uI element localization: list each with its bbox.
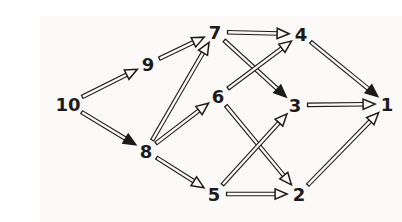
edge-shaft-core: [308, 104, 364, 105]
node-label-5: 5: [208, 184, 221, 205]
edge-shaft-core: [308, 120, 371, 184]
node-label-10: 10: [55, 94, 80, 115]
edge-8-5: [156, 157, 204, 187]
edge-shaft-core: [228, 32, 278, 33]
edge-5-3: [222, 114, 287, 185]
node-label-1: 1: [381, 94, 394, 115]
arrowhead-5-2: [275, 189, 287, 199]
edge-10-8: [81, 112, 136, 145]
dag-canvas: 10987654321: [40, 16, 402, 222]
edge-7-4: [227, 28, 289, 38]
edge-3-1: [307, 99, 375, 109]
edge-4-1: [310, 42, 378, 97]
arrowhead-10-9: [124, 69, 137, 79]
edge-shaft-core: [223, 122, 280, 184]
edge-5-2: [226, 189, 287, 199]
edge-shaft-core: [82, 113, 126, 140]
edge-shaft-core: [311, 42, 369, 89]
edge-9-7: [159, 37, 205, 59]
arrowhead-3-1: [363, 99, 375, 109]
edge-shaft-core: [156, 110, 199, 143]
node-label-3: 3: [289, 95, 302, 116]
node-label-7: 7: [209, 22, 222, 43]
edge-10-9: [82, 69, 138, 97]
edge-2-1: [307, 113, 378, 186]
edge-shaft-core: [160, 42, 194, 58]
arrowhead-9-7: [191, 37, 204, 47]
arrowhead-7-4: [277, 28, 289, 38]
node-label-9: 9: [142, 54, 155, 75]
edge-shaft-core: [83, 74, 128, 96]
node-label-4: 4: [295, 24, 308, 45]
graph-figure: 10987654321: [40, 16, 402, 222]
node-label-8: 8: [140, 141, 153, 162]
edge-shaft-core: [226, 106, 284, 176]
node-label-6: 6: [212, 86, 225, 107]
node-label-2: 2: [293, 184, 306, 205]
edge-shaft-core: [157, 158, 194, 182]
edge-6-4: [228, 41, 292, 89]
